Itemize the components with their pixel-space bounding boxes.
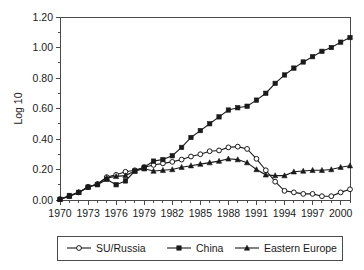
data-point (217, 115, 221, 119)
chart-container: 0.000.200.400.600.801.001.20197019731976… (0, 0, 364, 270)
data-point (273, 179, 278, 184)
line-chart: 0.000.200.400.600.801.001.20197019731976… (0, 0, 364, 270)
y-tick-label: 0.00 (33, 194, 54, 206)
y-tick-label: 1.00 (33, 41, 54, 53)
series-china (58, 35, 352, 201)
data-point (123, 179, 127, 183)
data-point (329, 194, 334, 199)
y-tick-label: 1.20 (33, 11, 54, 23)
data-point (282, 188, 287, 193)
data-point (264, 91, 268, 95)
data-point (226, 145, 231, 150)
data-point (320, 194, 325, 199)
data-point (282, 73, 286, 77)
data-point (291, 190, 296, 195)
data-point (170, 154, 174, 158)
data-point (245, 147, 250, 152)
series-eastern-europe (57, 156, 352, 201)
data-point (338, 190, 343, 195)
data-point (151, 159, 155, 163)
data-point (292, 66, 296, 70)
data-point (236, 106, 240, 110)
series-line (60, 147, 350, 200)
data-point (348, 187, 353, 192)
x-tick-label: 1970 (48, 207, 72, 219)
x-tick-label: 1985 (189, 207, 213, 219)
x-tick-label: 2000 (329, 207, 353, 219)
y-tick-label: 0.60 (33, 102, 54, 114)
x-tick-label: 1988 (217, 207, 241, 219)
x-tick-label: 1982 (161, 207, 185, 219)
data-point (217, 148, 222, 153)
data-point (189, 135, 193, 139)
y-tick-label: 0.80 (33, 72, 54, 84)
x-tick-label: 1997 (301, 207, 325, 219)
data-point (347, 163, 352, 168)
data-point (177, 246, 181, 250)
legend-label: Eastern Europe (264, 242, 337, 254)
data-point (310, 192, 315, 197)
data-point (161, 157, 165, 161)
plot-frame (60, 17, 350, 200)
y-tick-label: 0.40 (33, 133, 54, 145)
data-point (329, 45, 333, 49)
data-point (198, 152, 203, 157)
data-point (114, 183, 118, 187)
data-point (207, 122, 211, 126)
data-point (189, 154, 194, 159)
data-point (254, 98, 258, 102)
data-point (198, 128, 202, 132)
data-point (179, 157, 184, 162)
data-point (170, 159, 175, 164)
data-point (348, 35, 352, 39)
legend-label: SU/Russia (96, 242, 146, 254)
data-point (254, 156, 259, 161)
data-point (273, 81, 277, 85)
series-line (60, 38, 350, 200)
data-point (310, 54, 314, 58)
x-tick-label: 1994 (273, 207, 297, 219)
x-tick-label: 1973 (76, 207, 100, 219)
data-point (179, 145, 183, 149)
data-point (245, 104, 249, 108)
legend-label: China (196, 242, 224, 254)
data-point (301, 192, 306, 197)
y-axis-title: Log 10 (12, 92, 24, 124)
y-tick-label: 0.20 (33, 163, 54, 175)
x-tick-label: 1991 (245, 207, 269, 219)
data-point (301, 60, 305, 64)
x-tick-label: 1976 (104, 207, 128, 219)
data-point (77, 246, 82, 251)
data-point (254, 167, 259, 172)
data-point (207, 149, 212, 154)
x-tick-label: 1979 (133, 207, 157, 219)
data-point (235, 144, 240, 149)
series-su-russia (58, 144, 353, 201)
data-point (226, 108, 230, 112)
data-point (320, 49, 324, 53)
data-point (338, 40, 342, 44)
